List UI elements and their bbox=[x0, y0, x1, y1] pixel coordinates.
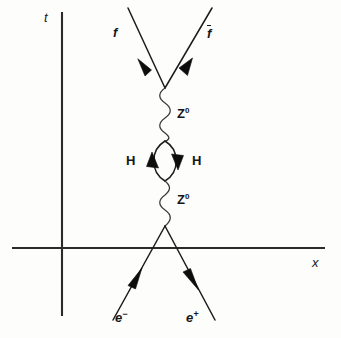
axes-group bbox=[12, 12, 325, 316]
fermion-out-left-arrow-icon bbox=[138, 59, 152, 76]
higgs-loop-group bbox=[147, 141, 184, 181]
upper-z-boson-charge: 0 bbox=[185, 106, 189, 115]
feynman-diagram-svg bbox=[0, 0, 341, 338]
lower-z-boson-charge: 0 bbox=[185, 192, 189, 201]
upper-z-boson-propagator bbox=[160, 88, 171, 141]
lower-z-boson-propagator bbox=[160, 181, 171, 226]
space-axis-label: x bbox=[312, 256, 319, 269]
electron-charge: − bbox=[122, 309, 127, 319]
fermion-out-left-label: f bbox=[113, 26, 117, 39]
fermion-out-left-line bbox=[128, 8, 165, 88]
time-axis-label: t bbox=[44, 11, 48, 24]
incoming-lepton-lines bbox=[113, 226, 215, 320]
outgoing-fermion-lines bbox=[128, 8, 212, 88]
fermion-out-right-label: f bbox=[207, 25, 211, 40]
electron-label: e− bbox=[115, 310, 128, 324]
positron-out-arrow-icon bbox=[183, 269, 199, 291]
higgs-loop-right-arrow-icon bbox=[172, 154, 184, 170]
higgs-left-label: H bbox=[126, 154, 135, 167]
lower-z-boson-symbol: Z bbox=[177, 192, 185, 207]
higgs-right-label: H bbox=[192, 154, 201, 167]
positron-label: e+ bbox=[186, 310, 199, 324]
fermion-out-right-overbar-glyph: f bbox=[207, 25, 211, 40]
upper-z-boson-symbol: Z bbox=[177, 106, 185, 121]
upper-z-boson-label: Z0 bbox=[177, 107, 189, 120]
feynman-diagram-canvas: t x f f Z0 H H Z0 e− e+ bbox=[0, 0, 341, 338]
higgs-loop-left-arrow-icon bbox=[147, 152, 159, 168]
lower-z-boson-label: Z0 bbox=[177, 193, 189, 206]
positron-charge: + bbox=[193, 309, 198, 319]
electron-in-arrow-icon bbox=[128, 268, 142, 289]
fermion-out-right-line bbox=[165, 8, 212, 88]
